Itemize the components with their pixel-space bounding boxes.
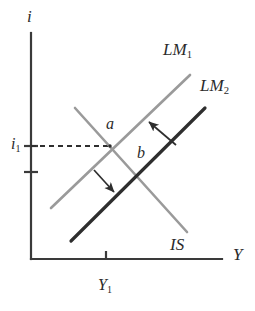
arrow-group (94, 122, 176, 192)
curve-group (51, 75, 205, 241)
tick-label-i1-sub: 1 (15, 143, 20, 154)
point-label-a: a (106, 116, 114, 132)
point-a-marker (108, 144, 111, 147)
lm2-curve (71, 108, 205, 241)
lm1-label-sub: 1 (187, 48, 192, 60)
shift-arrow-upper (149, 122, 176, 145)
tick-label-Y1: Y1 (98, 277, 112, 293)
tick-label-Y1-sub: 1 (107, 284, 112, 295)
lm2-curve-label: LM2 (200, 77, 229, 94)
shift-arrow-lower (94, 170, 114, 192)
x-axis-label: Y (233, 246, 242, 263)
point-marker-group (108, 144, 111, 147)
tick-label-i1: i1 (11, 136, 21, 152)
lm1-label-base: LM (163, 40, 187, 59)
lm2-label-base: LM (200, 76, 224, 95)
lm2-label-sub: 2 (224, 84, 229, 96)
is-curve-label: IS (170, 236, 184, 253)
tick-group (24, 146, 106, 260)
is-lm-figure: i Y i1 Y1 LM1 LM2 IS a b (0, 0, 255, 311)
y-axis-label: i (27, 8, 32, 25)
is-label-base: IS (170, 235, 184, 254)
diagram-canvas (0, 0, 255, 311)
tick-label-Y1-base: Y (98, 276, 107, 293)
point-label-b: b (137, 145, 145, 161)
lm1-curve-label: LM1 (163, 41, 192, 58)
